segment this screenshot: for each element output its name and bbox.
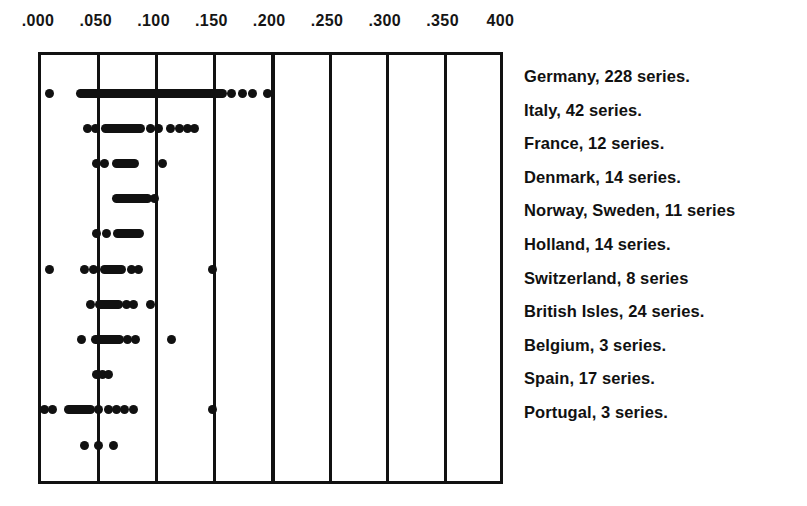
data-point [146, 300, 155, 309]
dot-row [41, 293, 500, 315]
data-point [86, 300, 95, 309]
legend-item: Germany, 228 series. [524, 68, 807, 102]
x-tick-label: .250 [311, 12, 344, 30]
data-point [45, 89, 54, 98]
data-point [166, 124, 175, 133]
legend-item: Italy, 42 series. [524, 102, 807, 136]
legend-item: Holland, 14 series. [524, 236, 807, 270]
data-point [238, 89, 247, 98]
x-tick-label: .300 [368, 12, 401, 30]
data-point [91, 124, 100, 133]
dot-cluster [76, 89, 217, 98]
data-point [263, 89, 272, 98]
dot-row [41, 434, 500, 456]
legend-item: British Isles, 24 series. [524, 303, 807, 337]
data-point [129, 300, 138, 309]
x-tick-label: .100 [137, 12, 170, 30]
data-point [190, 124, 199, 133]
x-tick-label: .350 [426, 12, 459, 30]
dot-cluster [64, 405, 95, 414]
dot-cluster [95, 300, 122, 309]
legend-item: Spain, 17 series. [524, 370, 807, 404]
data-point [92, 229, 101, 238]
data-point [48, 405, 57, 414]
data-point [45, 265, 54, 274]
dot-plot-figure: .000.050.100.150.200.250.300.350400 Germ… [0, 0, 807, 506]
x-tick-label: 400 [486, 12, 514, 30]
x-tick-label: .050 [79, 12, 112, 30]
dot-cluster [91, 335, 124, 344]
data-point [208, 265, 217, 274]
legend: Germany, 228 series.Italy, 42 series.Fra… [524, 68, 807, 438]
dot-row [41, 152, 500, 174]
dot-row [41, 364, 500, 386]
data-point [167, 335, 176, 344]
data-point [94, 441, 103, 450]
data-point [120, 405, 129, 414]
data-point [102, 229, 111, 238]
data-point [89, 265, 98, 274]
legend-item: Belgium, 3 series. [524, 337, 807, 371]
data-point [248, 89, 257, 98]
data-point [134, 265, 143, 274]
data-point [208, 405, 217, 414]
data-point [129, 405, 138, 414]
data-point [100, 159, 109, 168]
dot-cluster [100, 265, 126, 274]
data-point [150, 194, 159, 203]
x-axis-tick-labels: .000.050.100.150.200.250.300.350400 [0, 12, 540, 40]
dot-cluster [113, 229, 144, 238]
data-point [131, 335, 140, 344]
dot-row [41, 223, 500, 245]
plot-frame [38, 52, 503, 484]
data-point [104, 370, 113, 379]
dot-cluster [112, 194, 152, 203]
x-tick-label: .200 [253, 12, 286, 30]
dot-row [41, 117, 500, 139]
x-tick-label: .150 [195, 12, 228, 30]
data-point [158, 159, 167, 168]
data-point [109, 441, 118, 450]
dot-cluster [101, 124, 145, 133]
x-tick-label: .000 [22, 12, 55, 30]
data-point [80, 441, 89, 450]
legend-item: France, 12 series. [524, 135, 807, 169]
dot-row [41, 399, 500, 421]
legend-item: Denmark, 14 series. [524, 169, 807, 203]
dot-row [41, 258, 500, 280]
dot-row [41, 328, 500, 350]
dot-cluster [112, 159, 139, 168]
legend-item: Portugal, 3 series. [524, 404, 807, 438]
legend-item: Norway, Sweden, 11 series [524, 202, 807, 236]
dot-row [41, 82, 500, 104]
data-point [77, 335, 86, 344]
dot-row [41, 188, 500, 210]
data-point [94, 405, 103, 414]
legend-item: Switzerland, 8 series [524, 270, 807, 304]
data-point [227, 89, 236, 98]
data-point [154, 124, 163, 133]
dot-cluster [210, 89, 227, 98]
